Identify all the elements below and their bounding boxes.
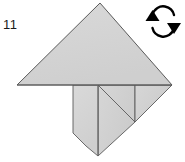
turn-over-icon xyxy=(143,2,183,42)
turn-over-right-arrowhead-down xyxy=(167,23,181,34)
turn-over-top-curve xyxy=(153,6,175,15)
turn-over-left-arrowhead-up xyxy=(146,10,160,21)
lower-left-flap xyxy=(73,85,98,156)
origami-diagram-canvas: 11 xyxy=(0,0,185,162)
turn-over-bottom-curve xyxy=(153,28,175,37)
lower-right-wedge xyxy=(98,85,135,156)
right-lower-triangle xyxy=(135,85,172,122)
